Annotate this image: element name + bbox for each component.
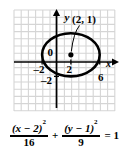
x-axis-arrow	[112, 58, 119, 65]
center-point-annotation: (2, 1)	[72, 13, 96, 26]
equation-right-hand-side: = 1	[103, 129, 120, 141]
term2-numerator-exponent: 2	[94, 118, 98, 126]
x-tick-label-2: 2	[67, 63, 73, 75]
term1-numerator-exponent: 2	[42, 118, 46, 126]
term1-numerator-base: (x − 2)	[12, 122, 43, 134]
equation-plus-operator: +	[51, 129, 59, 141]
term2-numerator-base: (y − 1)	[64, 122, 94, 134]
term2-denominator: 9	[78, 137, 84, 149]
term1-denominator: 16	[23, 137, 34, 149]
equation-term-1: (x − 2)2 16	[10, 122, 48, 148]
ellipse-graph: y x 0 –2 2 6 –2 (2, 1)	[0, 0, 129, 115]
x-axis-label: x	[105, 58, 111, 69]
origin-label: 0	[48, 46, 54, 58]
y-tick-label-neg2: –2	[40, 74, 53, 86]
term2-numerator: (y − 1)2	[62, 122, 99, 134]
equation-row: (x − 2)2 16 + (y − 1)2 9 = 1	[10, 122, 119, 148]
equation-term-2: (y − 1)2 9	[62, 122, 99, 148]
x-tick-label-6: 6	[98, 71, 104, 83]
ellipse-equation: (x − 2)2 16 + (y − 1)2 9 = 1	[0, 114, 129, 157]
graph-svg: y x 0 –2 2 6 –2 (2, 1)	[0, 0, 129, 115]
term1-numerator: (x − 2)2	[10, 122, 48, 134]
figure-container: y x 0 –2 2 6 –2 (2, 1) (x − 2)2 16 + (y …	[0, 0, 129, 157]
center-point-marker	[68, 52, 73, 57]
y-axis-label: y	[63, 11, 70, 23]
